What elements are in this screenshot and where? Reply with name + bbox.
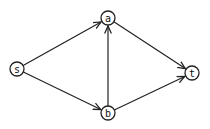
node-label: t <box>189 68 195 79</box>
edge-b-t <box>114 76 184 110</box>
edge-a-t <box>114 22 185 69</box>
node-label: b <box>105 108 111 119</box>
edges <box>23 22 185 110</box>
node-b: b <box>101 106 115 120</box>
edge-s-b <box>23 72 100 109</box>
node-s: s <box>10 62 24 76</box>
node-a: a <box>101 11 115 25</box>
nodes: sabt <box>10 11 199 120</box>
node-label: a <box>105 13 111 24</box>
flow-network-diagram: sabt <box>0 0 210 129</box>
edge-s-a <box>23 22 101 66</box>
node-label: s <box>14 64 20 75</box>
node-t: t <box>185 66 199 80</box>
